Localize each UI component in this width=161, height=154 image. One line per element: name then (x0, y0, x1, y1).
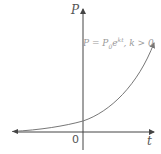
formula-annotation: P = P0ekt, k > 0 (83, 36, 154, 50)
formula-rhs: , k > 0 (124, 38, 154, 48)
origin-label: 0 (72, 133, 79, 146)
formula-lhs: P = P (83, 38, 108, 48)
x-axis-label: t (147, 134, 152, 148)
curve-left-arrow-icon (12, 129, 18, 134)
y-axis-label: P (71, 3, 79, 17)
exponential-chart (0, 0, 161, 154)
